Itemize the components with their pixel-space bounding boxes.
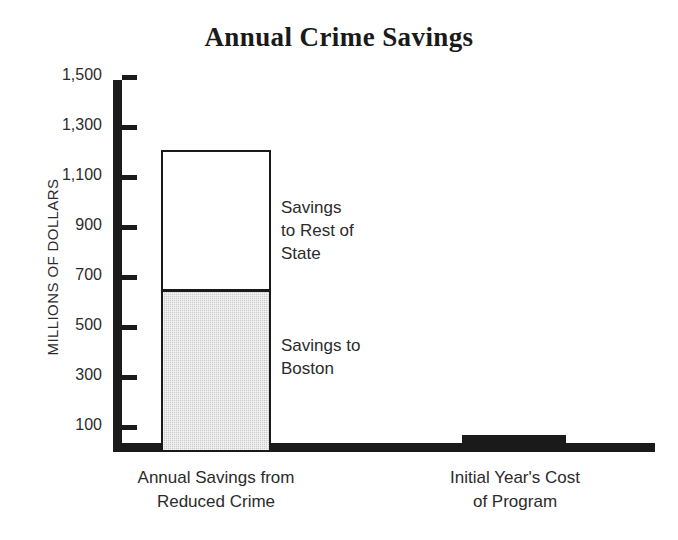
bar-segment-savings-to-boston bbox=[161, 290, 271, 453]
annotation-savings-to-boston: Savings to Boston bbox=[281, 334, 360, 380]
y-axis-tick-label-holder: 300 bbox=[40, 366, 102, 386]
y-axis-tick-label-holder: 700 bbox=[40, 266, 102, 286]
x-axis-category-label-1: Initial Year's Cost of Program bbox=[405, 466, 625, 514]
y-axis-tick-label-holder: 100 bbox=[40, 416, 102, 436]
y-axis-tick-label-1100: 1,100 bbox=[40, 166, 102, 184]
annotation-savings-to-rest-of-state: Savings to Rest of State bbox=[281, 196, 354, 265]
y-axis-tick-label-100: 100 bbox=[40, 416, 102, 434]
y-axis-tick-1100 bbox=[122, 175, 137, 180]
y-axis-tick-label-holder: 1,300 bbox=[40, 116, 102, 136]
chart-figure: Annual Crime Savings MILLIONS OF DOLLARS… bbox=[0, 0, 678, 540]
y-axis-ticks: 1003005007009001,1001,3001,500 bbox=[0, 0, 678, 540]
y-axis-tick-label-holder: 1,100 bbox=[40, 166, 102, 186]
x-axis-category-label-0: Annual Savings from Reduced Crime bbox=[96, 466, 336, 514]
y-axis-tick-700 bbox=[122, 275, 137, 280]
y-axis-tick-label-300: 300 bbox=[40, 366, 102, 384]
y-axis-tick-label-700: 700 bbox=[40, 266, 102, 284]
y-axis-tick-900 bbox=[122, 225, 137, 230]
y-axis-tick-1500 bbox=[122, 75, 137, 80]
y-axis-tick-label-holder: 900 bbox=[40, 216, 102, 236]
y-axis-tick-label-500: 500 bbox=[40, 316, 102, 334]
y-axis-tick-label-holder: 500 bbox=[40, 316, 102, 336]
y-axis-tick-300 bbox=[122, 375, 137, 380]
y-axis-tick-label-900: 900 bbox=[40, 216, 102, 234]
y-axis-tick-label-1500: 1,500 bbox=[40, 66, 102, 84]
bar-segment-savings-to-rest-of-state bbox=[161, 150, 271, 291]
y-axis-tick-label-1300: 1,300 bbox=[40, 116, 102, 134]
bar-initial-year-cost-of-program bbox=[462, 435, 566, 452]
y-axis-tick-100 bbox=[122, 425, 137, 430]
y-axis-tick-500 bbox=[122, 325, 137, 330]
y-axis-tick-1300 bbox=[122, 125, 137, 130]
y-axis-tick-label-holder: 1,500 bbox=[40, 66, 102, 86]
